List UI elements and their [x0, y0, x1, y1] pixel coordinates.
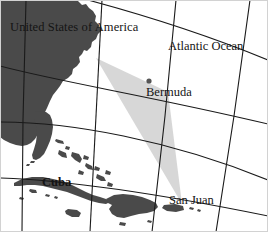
- bermuda-triangle-map: United States of America Atlantic Ocean …: [0, 0, 268, 232]
- label-san-juan: San Juan: [169, 194, 214, 207]
- bermuda-marker-dot: [146, 78, 151, 83]
- label-cuba: Cuba: [42, 176, 71, 189]
- label-atlantic-ocean: Atlantic Ocean: [168, 40, 243, 53]
- map-canvas: [0, 0, 268, 232]
- label-bermuda: Bermuda: [146, 86, 192, 99]
- label-united-states-of-america: United States of America: [10, 21, 138, 34]
